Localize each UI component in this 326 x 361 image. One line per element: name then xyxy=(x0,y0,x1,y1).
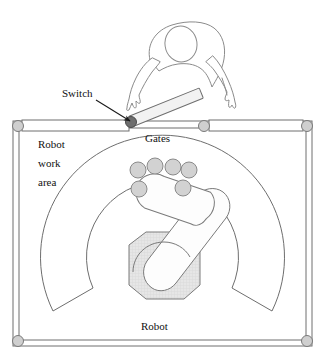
disc xyxy=(130,162,146,178)
right-gate-bar[interactable] xyxy=(209,120,303,131)
right-gate-right-pivot[interactable] xyxy=(302,121,313,132)
work-area-label-line3: area xyxy=(38,176,56,188)
gates-label: Gates xyxy=(145,132,170,144)
disc xyxy=(131,181,147,197)
switch-callout-arrow xyxy=(96,100,130,121)
left-gate-bar[interactable] xyxy=(22,120,129,131)
robot-label: Robot xyxy=(141,320,168,332)
disc xyxy=(175,180,191,196)
diagram-canvas: Switch Gates Robot work area Robot xyxy=(0,0,326,361)
switch-label: Switch xyxy=(62,87,93,99)
corner-pivots xyxy=(13,336,313,347)
work-area-label-line1: Robot xyxy=(38,138,65,150)
right-gate[interactable] xyxy=(199,120,313,132)
disc xyxy=(181,162,197,178)
corner-pivot-bottom-left xyxy=(13,336,24,347)
corner-pivot-bottom-right xyxy=(302,336,313,347)
switch-pivot[interactable] xyxy=(126,117,137,128)
disc xyxy=(147,158,163,174)
right-gate-left-pivot[interactable] xyxy=(199,121,210,132)
work-area-label-line2: work xyxy=(38,157,61,169)
human-left-arm xyxy=(127,58,160,110)
left-gate-hinge-pivot[interactable] xyxy=(13,121,24,132)
disc xyxy=(165,159,181,175)
left-gate[interactable] xyxy=(13,120,130,132)
